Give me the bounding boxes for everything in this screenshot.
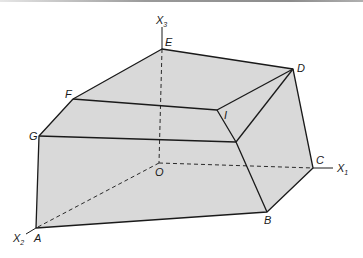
- label-x3: X3: [155, 14, 167, 28]
- vertex-F: F: [65, 88, 73, 100]
- vertex-E: E: [165, 36, 173, 48]
- polyhedron-diagram: X3 X1 X2 E D F I G O C B A: [0, 0, 363, 258]
- vertex-A: A: [33, 232, 41, 244]
- vertex-C: C: [316, 154, 324, 166]
- vertex-G: G: [29, 130, 38, 142]
- label-x1: X1: [336, 162, 348, 176]
- vertex-B: B: [264, 214, 271, 226]
- vertex-I: I: [224, 109, 227, 121]
- vertex-O: O: [155, 166, 164, 178]
- label-x2: X2: [12, 232, 24, 246]
- vertex-D: D: [297, 62, 305, 74]
- polyhedron-fill: [36, 49, 313, 228]
